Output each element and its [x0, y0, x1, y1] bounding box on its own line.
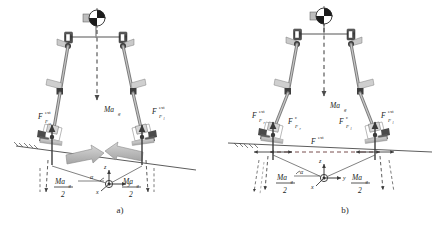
panel-b-label-right-reaction: Ma g 2 — [351, 173, 370, 195]
svg-text:l: l — [393, 121, 394, 125]
svg-text:Ma: Ma — [351, 173, 362, 182]
panel-b-ground-line — [228, 143, 432, 152]
svg-text:F: F — [258, 118, 262, 123]
svg-text:ext: ext — [388, 109, 394, 114]
svg-text:2: 2 — [358, 186, 362, 195]
panel-a-center-of-mass-icon — [83, 8, 106, 28]
svg-text:F: F — [287, 117, 293, 126]
panel-a-caption: a) — [100, 205, 140, 215]
svg-text:Ma: Ma — [103, 105, 114, 114]
panel-b-caption: b) — [325, 205, 365, 215]
panel-a-left-leg — [37, 32, 73, 146]
panel-a-right-reaction-arrow — [146, 160, 148, 192]
svg-text:Ma: Ma — [329, 101, 340, 110]
panel-a-right-leg — [119, 32, 157, 146]
panel-b-label-left-contact-force: F c F r — [287, 115, 302, 131]
panel-b-left-guide-dash — [254, 160, 259, 192]
panel-b-left-extra-dash — [260, 162, 264, 194]
svg-text:r: r — [300, 127, 302, 131]
panel-a-label-left-reaction: Ma g 2 — [54, 177, 73, 199]
panel-b-right-reaction-arrow — [380, 156, 383, 190]
panel-b-label-right-contact-force: F c F l — [338, 115, 352, 131]
svg-text:ext: ext — [159, 105, 165, 110]
svg-text:F: F — [294, 124, 298, 129]
panel-a-label-gravity-force: Ma g — [103, 105, 121, 116]
panel-b-left-reaction-arrow — [265, 156, 268, 190]
panel-b-axis-x-label: x — [310, 184, 314, 190]
panel-b-center-of-mass-icon — [310, 6, 333, 26]
svg-text:Ma: Ma — [276, 173, 287, 182]
svg-text:l: l — [164, 117, 165, 121]
svg-text:2: 2 — [129, 190, 133, 199]
panel-b-right-leg — [347, 29, 390, 144]
panel-a-left-reaction-arrow — [46, 160, 48, 192]
svg-text:F: F — [158, 114, 162, 119]
svg-text:ext: ext — [318, 135, 324, 140]
panel-b-coordinate-frame — [296, 164, 341, 186]
biped-free-body-diagram-svg: F ext F r F ext F l Ma g Ma g 2 Ma g 2 z — [0, 0, 445, 229]
svg-text:l: l — [351, 127, 352, 131]
svg-text:F: F — [380, 111, 386, 120]
svg-text:g: g — [344, 107, 347, 112]
figure-container: F ext F r F ext F l Ma g Ma g 2 Ma g 2 z — [0, 0, 445, 229]
panel-b-label-gravity-force: Ma g — [329, 101, 347, 112]
svg-text:g: g — [118, 111, 121, 116]
svg-text:2: 2 — [61, 190, 65, 199]
svg-text:F: F — [37, 112, 43, 121]
svg-text:F: F — [338, 117, 344, 126]
svg-text:F: F — [151, 107, 157, 116]
panel-a-axis-y-label: y — [127, 181, 131, 187]
panel-a-label-left-external-force: F ext F r — [37, 110, 52, 126]
svg-text:c: c — [295, 115, 297, 120]
panel-a-label-right-reaction: Ma g 2 — [122, 177, 141, 199]
panel-b-angle-label: α — [300, 169, 304, 175]
ground-hatching-a — [14, 142, 38, 149]
panel-b: F ext F r F c F r F c F l F ext F l F ex… — [228, 6, 432, 195]
svg-text:F: F — [387, 118, 391, 123]
panel-a-axis-x-label: x — [95, 189, 99, 195]
svg-text:F: F — [251, 111, 257, 120]
svg-text:Ma: Ma — [54, 177, 65, 186]
panel-b-label-left-external-force: F ext F r — [251, 109, 266, 125]
panel-a-left-push-arrow — [66, 145, 104, 164]
svg-text:F: F — [44, 119, 48, 124]
svg-text:ext: ext — [45, 110, 51, 115]
panel-b-axis-y-label: y — [342, 175, 346, 181]
panel-a: F ext F r F ext F l Ma g Ma g 2 Ma g 2 z — [14, 8, 196, 199]
panel-b-right-guide-dash — [389, 160, 394, 192]
svg-text:2: 2 — [283, 186, 287, 195]
panel-b-right-baseline — [324, 155, 375, 178]
panel-a-label-right-external-force: F ext F l — [151, 105, 165, 121]
svg-text:c: c — [346, 115, 348, 120]
panel-b-axis-z-label: z — [318, 158, 322, 164]
panel-b-label-horizontal-external-force: F ext — [310, 135, 324, 146]
svg-text:F: F — [345, 124, 349, 129]
panel-a-axis-z-label: z — [103, 164, 107, 170]
svg-text:F: F — [310, 137, 316, 146]
svg-text:ext: ext — [259, 109, 265, 114]
panel-b-label-left-reaction: Ma g 2 — [276, 173, 295, 195]
